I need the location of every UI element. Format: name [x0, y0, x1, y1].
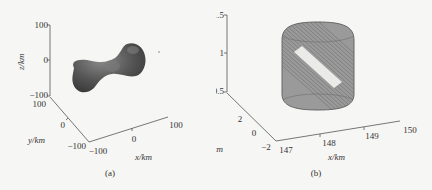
caption-a: (a) [105, 168, 115, 178]
z-axis-label: z/km [16, 53, 26, 71]
y-tick: 100 [33, 99, 47, 109]
caption-b: (b) [311, 168, 322, 178]
x-axis-b: 147 148 149 150 x/km [276, 121, 417, 162]
z-tick: 1.5 [216, 10, 225, 20]
panel-b: 1.5 1 0.5 z/km 4 2 0 −2 y/km 147 148 149… [216, 0, 432, 190]
z-axis-a: 100 0 −100 z/km [16, 20, 50, 100]
z-tick: 0 [44, 55, 49, 65]
z-tick: 1 [220, 48, 225, 58]
y-tick: −100 [67, 141, 86, 151]
x-tick: 150 [403, 125, 417, 135]
x-tick: 0 [132, 134, 137, 144]
z-axis-b: 1.5 1 0.5 z/km [216, 10, 227, 96]
x-axis-label: x/km [327, 152, 345, 162]
z-tick: 0.5 [216, 86, 225, 96]
x-tick: 148 [322, 138, 336, 148]
asteroid-shape [72, 43, 159, 92]
y-tick: −2 [261, 142, 271, 152]
panel-a: 100 0 −100 z/km 100 0 −100 y/km −100 0 1… [0, 0, 216, 190]
x-tick: 149 [365, 131, 379, 141]
x-tick: 100 [169, 120, 183, 130]
y-tick: 0 [61, 120, 66, 130]
z-tick: 100 [35, 20, 49, 30]
orbit-trajectory [276, 0, 366, 140]
x-axis-label: x/km [134, 152, 152, 162]
y-tick: 2 [238, 114, 243, 124]
y-axis-b: 4 2 0 −2 y/km [216, 93, 276, 154]
x-tick: 147 [279, 145, 293, 155]
y-tick: 0 [252, 128, 257, 138]
y-axis-a: 100 0 −100 y/km [27, 97, 89, 151]
x-tick: −100 [89, 146, 108, 156]
y-axis-label: y/km [216, 144, 223, 154]
x-axis-a: −100 0 100 x/km [89, 117, 184, 162]
y-axis-label: y/km [27, 135, 45, 145]
